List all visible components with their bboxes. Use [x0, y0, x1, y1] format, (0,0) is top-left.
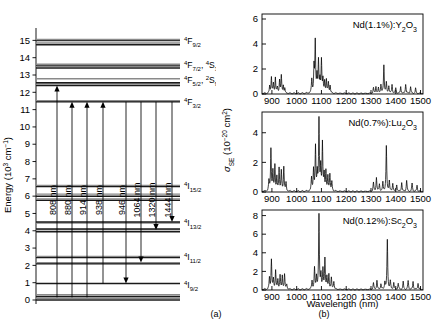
energy-tick-label: 8 [25, 156, 30, 167]
x-tick-label: 900 [264, 193, 280, 204]
y-tick-label: 0 [253, 186, 258, 197]
svg-text:4I9/2: 4I9/2 [184, 280, 199, 292]
y-tick-label: 2 [253, 63, 258, 74]
x-tick-label: 1400 [385, 193, 406, 204]
x-tick-label: 1000 [286, 193, 307, 204]
svg-text:1064 nm: 1064 nm [132, 182, 142, 217]
x-tick-label: 900 [264, 291, 280, 302]
spectrum-lu2o3: 024900100011001200130014001500Nd(0.7%):L… [253, 112, 431, 204]
svg-text:4F5/2, 2S9/2: 4F5/2, 2S9/2 [184, 75, 216, 87]
energy-tick-label: 14 [19, 52, 30, 63]
x-tick-label: 1300 [360, 193, 381, 204]
energy-tick-label: 15 [19, 35, 30, 46]
svg-text:4F3/2: 4F3/2 [184, 97, 202, 109]
energy-tick-label: 13 [19, 69, 30, 80]
transition-arrowhead [123, 278, 128, 284]
y-tick-label: 6 [253, 13, 258, 24]
y-tick-label: 6 [253, 228, 258, 239]
figure-container: 0123456789101112131415Energy (103 cm−1)4… [0, 0, 432, 332]
transition-label: 946 nm [117, 185, 127, 215]
transition-label: 1444 nm [163, 182, 173, 217]
svg-text:880 nm: 880 nm [63, 185, 73, 215]
y-tick-label: 8 [253, 210, 258, 221]
transition-label: 808 nm [48, 185, 58, 215]
y-tick-label: 0 [253, 284, 258, 295]
x-tick-label: 1000 [286, 291, 307, 302]
svg-text:946 nm: 946 nm [117, 185, 127, 215]
svg-text:Nd(1.1%):Y2O3: Nd(1.1%):Y2O3 [353, 19, 417, 33]
energy-tick-label: 11 [20, 104, 30, 115]
transition-label: 1064 nm [132, 182, 142, 217]
x-tick-label: 1300 [360, 95, 381, 106]
svg-text:σSE (10−20 cm2): σSE (10−20 cm2) [221, 108, 235, 172]
y-tick-label: 2 [253, 266, 258, 277]
x-tick-label: 1500 [410, 291, 431, 302]
energy-tick-label: 5 [25, 208, 30, 219]
spectrum-y2o3: 0246900100011001200130014001500Nd(1.1%):… [253, 13, 431, 106]
transition-label: 880 nm [63, 185, 73, 215]
caption-panel-b: (b) [216, 309, 432, 319]
svg-text:4I11/2: 4I11/2 [184, 252, 202, 264]
svg-text:Energy (103 cm−1): Energy (103 cm−1) [2, 137, 14, 213]
energy-tick-label: 3 [25, 242, 30, 253]
svg-text:Nd(0.7%):Lu2O3: Nd(0.7%):Lu2O3 [348, 117, 417, 131]
sigma-axis-label: σSE (10−20 cm2) [221, 108, 235, 172]
manifold-label: 4F3/2 [184, 97, 202, 109]
subplot-title: Nd(0.7%):Lu2O3 [348, 117, 417, 131]
svg-text:4F7/2, 4S3/2: 4F7/2, 4S3/2 [184, 60, 216, 72]
manifold-label: 4F9/2 [184, 36, 202, 48]
energy-tick-label: 12 [19, 87, 30, 98]
svg-text:1444 nm: 1444 nm [163, 182, 173, 217]
x-tick-label: 1200 [336, 193, 357, 204]
energy-tick-label: 10 [19, 121, 30, 132]
energy-tick-label: 4 [25, 225, 30, 236]
manifold-label: 4I9/2 [184, 280, 199, 292]
x-tick-label: 1500 [410, 193, 431, 204]
transition-arrowhead [84, 102, 89, 108]
manifold-label: 4I13/2 [184, 218, 202, 230]
y-tick-label: 4 [253, 247, 258, 258]
x-tick-label: 1000 [286, 95, 307, 106]
x-tick-label: 1400 [385, 291, 406, 302]
energy-tick-label: 0 [25, 294, 30, 305]
spectra-svg: 0246900100011001200130014001500Nd(1.1%):… [216, 0, 432, 332]
energy-tick-label: 1 [25, 277, 30, 288]
panel-b-spectra: 0246900100011001200130014001500Nd(1.1%):… [216, 0, 432, 332]
x-tick-label: 1100 [311, 193, 331, 204]
transition-arrowhead [100, 102, 105, 108]
manifold-label: 4I11/2 [184, 252, 202, 264]
subplot-title: Nd(0.12%):Sc2O3 [343, 215, 417, 229]
svg-text:808 nm: 808 nm [48, 185, 58, 215]
x-tick-label: 1100 [311, 95, 331, 106]
spectrum-trace [262, 38, 423, 94]
svg-text:4F9/2: 4F9/2 [184, 36, 202, 48]
transition-arrowhead [138, 257, 143, 263]
svg-text:1320 nm: 1320 nm [147, 182, 157, 217]
energy-tick-label: 9 [25, 138, 30, 149]
transition-label: 938 nm [94, 185, 104, 215]
transition-arrowhead [69, 102, 74, 108]
energy-tick-label: 7 [25, 173, 30, 184]
y-tick-label: 0 [253, 88, 258, 99]
x-tick-label: 900 [264, 95, 280, 106]
svg-text:4I13/2: 4I13/2 [184, 218, 202, 230]
svg-text:938 nm: 938 nm [94, 185, 104, 215]
manifold-label: 4F5/2, 2S9/2 [184, 75, 216, 87]
manifold-label: 4I15/2 [184, 181, 202, 193]
energy-level-diagram-svg: 0123456789101112131415Energy (103 cm−1)4… [0, 0, 216, 332]
svg-text:Nd(0.12%):Sc2O3: Nd(0.12%):Sc2O3 [343, 215, 417, 229]
wavelength-axis-label: Wavelength (nm) [307, 298, 379, 309]
transition-label: 914 nm [78, 185, 88, 215]
transition-label: 1320 nm [147, 182, 157, 217]
y-tick-label: 4 [253, 127, 258, 138]
spectrum-sc2o3: 02468900100011001200130014001500Nd(0.12%… [253, 210, 431, 302]
y-tick-label: 2 [253, 157, 258, 168]
x-tick-label: 1400 [385, 95, 406, 106]
energy-tick-label: 2 [25, 260, 30, 271]
y-tick-label: 4 [253, 38, 258, 49]
subplot-title: Nd(1.1%):Y2O3 [353, 19, 417, 33]
x-tick-label: 1500 [410, 95, 431, 106]
energy-axis-label: Energy (103 cm−1) [2, 137, 14, 213]
transition-arrowhead [54, 85, 59, 91]
energy-tick-label: 6 [25, 190, 30, 201]
